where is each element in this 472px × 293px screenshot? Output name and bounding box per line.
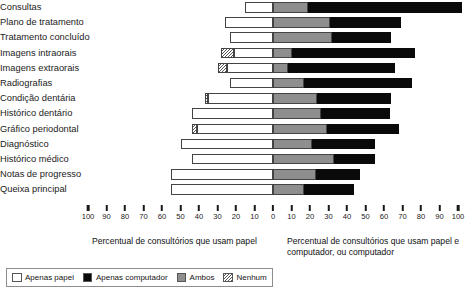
- bar-row: [92, 106, 468, 121]
- tick-left-20: 20: [232, 205, 240, 221]
- bar-segment-nenhum: [218, 63, 227, 74]
- bar-segment-apenas-computador: [321, 108, 389, 119]
- bar-segment-apenas-papel: [171, 184, 273, 195]
- tick-left-70: 70: [139, 205, 147, 221]
- axis-title-right: Percentual de consultórios que usam pape…: [287, 236, 463, 257]
- bar-segment-apenas-computador: [304, 184, 354, 195]
- tick-label: 50: [176, 212, 184, 221]
- bar-segment-apenas-papel: [197, 124, 273, 135]
- bar-segment-nenhum: [205, 93, 209, 104]
- tick-mark: [346, 205, 348, 211]
- tick-right-30: 30: [324, 205, 332, 221]
- bar-segment-apenas-computador: [330, 17, 400, 28]
- bar-row: [92, 46, 468, 61]
- category-label: Queixa principal: [0, 182, 92, 197]
- bar-segment-apenas-papel: [234, 48, 273, 59]
- tick-label: 100: [452, 212, 465, 221]
- gray-swatch: [177, 273, 187, 283]
- bar-segment-ambos: [273, 63, 288, 74]
- category-label: Plano de tratamento: [0, 15, 92, 30]
- hatched-swatch: [223, 273, 233, 283]
- bar-segment-apenas-papel: [230, 78, 273, 89]
- tick-left-10: 10: [250, 205, 258, 221]
- black-swatch: [83, 273, 93, 283]
- tick-right-40: 40: [343, 205, 351, 221]
- tick-mark: [364, 205, 366, 211]
- tick-mark: [438, 205, 440, 211]
- chart-legend: Apenas papelApenas computadorAmbosNenhum: [6, 268, 273, 287]
- tick-mark: [383, 205, 385, 211]
- category-label: Consultas: [0, 0, 92, 15]
- tick-label: 20: [306, 212, 314, 221]
- category-label: Gráfico periodontal: [0, 122, 92, 137]
- tick-left-80: 80: [121, 205, 129, 221]
- tick-label: 10: [250, 212, 258, 221]
- tick-right-60: 60: [380, 205, 388, 221]
- bar-segment-apenas-papel: [230, 32, 273, 43]
- tick-label: 50: [361, 212, 369, 221]
- bar-segment-ambos: [273, 17, 330, 28]
- bar-segment-apenas-computador: [316, 169, 360, 180]
- bar-segment-ambos: [273, 48, 292, 59]
- bar-segment-apenas-computador: [308, 2, 462, 13]
- tick-label: 80: [121, 212, 129, 221]
- tick-label: 70: [398, 212, 406, 221]
- legend-label: Nenhum: [236, 273, 266, 282]
- tick-mark: [179, 205, 181, 211]
- tick-left-40: 40: [195, 205, 203, 221]
- bar-segment-apenas-papel: [225, 17, 273, 28]
- tick-label: 0: [271, 212, 275, 221]
- bar-segment-ambos: [273, 2, 308, 13]
- tick-label: 20: [232, 212, 240, 221]
- category-label: Histórico médico: [0, 152, 92, 167]
- legend-label: Apenas papel: [25, 273, 74, 282]
- tick-mark: [87, 205, 89, 211]
- bar-segment-ambos: [273, 78, 304, 89]
- tick-label: 40: [195, 212, 203, 221]
- bar-segment-ambos: [273, 139, 312, 150]
- axis-titles: Percentual de consultórios que usam pape…: [0, 236, 472, 262]
- bar-row: [92, 30, 468, 45]
- tick-left-90: 90: [102, 205, 110, 221]
- legend-item-apenas-papel[interactable]: Apenas papel: [12, 273, 74, 283]
- tick-mark: [401, 205, 403, 211]
- legend-label: Apenas computador: [96, 273, 168, 282]
- tick-label: 30: [213, 212, 221, 221]
- tick-mark: [290, 205, 292, 211]
- tick-label: 10: [287, 212, 295, 221]
- category-label: Notas de progresso: [0, 167, 92, 182]
- legend-item-ambos[interactable]: Ambos: [177, 273, 215, 283]
- legend-item-nenhum[interactable]: Nenhum: [223, 273, 266, 283]
- tick-label: 30: [324, 212, 332, 221]
- bar-segment-apenas-papel: [192, 154, 273, 165]
- bar-segment-ambos: [273, 184, 304, 195]
- bar-row: [92, 15, 468, 30]
- legend-label: Ambos: [190, 273, 215, 282]
- chart-container: ConsultasPlano de tratamentoTratamento c…: [0, 0, 472, 293]
- bar-row: [92, 0, 468, 15]
- tick-label: 90: [435, 212, 443, 221]
- tick-left-50: 50: [176, 205, 184, 221]
- tick-right-90: 90: [435, 205, 443, 221]
- tick-mark: [235, 205, 237, 211]
- bar-segment-apenas-computador: [288, 63, 395, 74]
- bar-row: [92, 137, 468, 152]
- category-label: Radiografias: [0, 76, 92, 91]
- bar-row: [92, 167, 468, 182]
- bar-segment-apenas-computador: [292, 48, 416, 59]
- tick-mark: [142, 205, 144, 211]
- value-axis-ticks: 1009080706050403020100102030405060708090…: [92, 205, 468, 229]
- bar-segment-apenas-computador: [334, 154, 375, 165]
- bar-segment-apenas-papel: [171, 169, 273, 180]
- tick-mark: [272, 205, 274, 211]
- tick-label: 60: [158, 212, 166, 221]
- bar-row: [92, 152, 468, 167]
- bar-segment-nenhum: [221, 48, 234, 59]
- bar-segment-ambos: [273, 169, 316, 180]
- tick-label: 40: [343, 212, 351, 221]
- bar-segment-apenas-computador: [327, 124, 399, 135]
- bar-segment-apenas-computador: [332, 32, 391, 43]
- tick-left-0: 0: [271, 205, 275, 221]
- category-label: Imagens intraorais: [0, 46, 92, 61]
- legend-item-apenas-computador[interactable]: Apenas computador: [83, 273, 168, 283]
